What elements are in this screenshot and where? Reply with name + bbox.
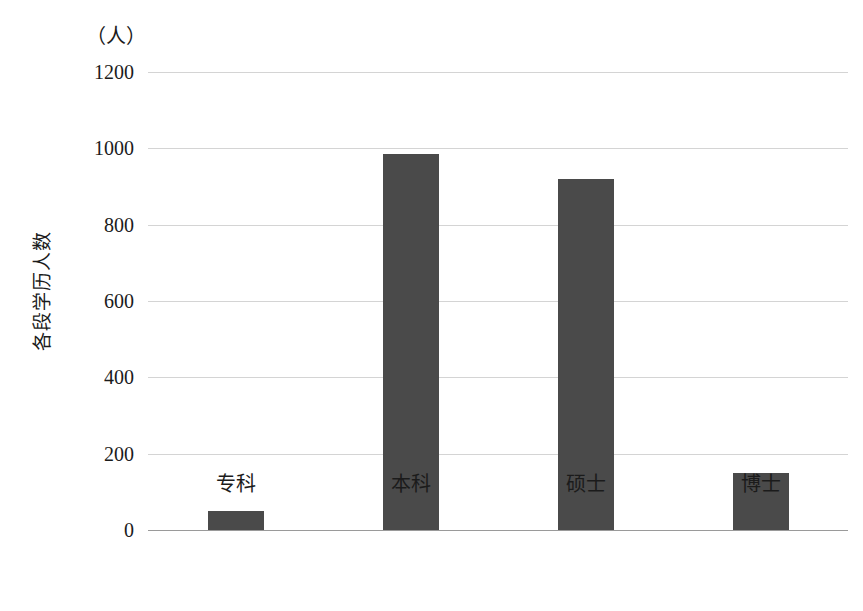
plot-area: 020040060080010001200 xyxy=(148,72,848,530)
bar-slot xyxy=(673,72,848,530)
y-tick-label: 600 xyxy=(104,291,134,311)
y-axis-unit-label: （人） xyxy=(86,24,146,48)
bar xyxy=(208,511,264,530)
bar-slot xyxy=(323,72,498,530)
bar-chart: （人） 各段学历人数 020040060080010001200 专科本科硕士博… xyxy=(0,0,863,611)
bar-series xyxy=(148,72,848,530)
y-tick-label: 400 xyxy=(104,367,134,387)
y-tick-label: 200 xyxy=(104,444,134,464)
x-tick-label: 硕士 xyxy=(498,472,673,496)
bar-slot xyxy=(498,72,673,530)
y-tick-label: 1200 xyxy=(94,62,134,82)
x-tick-label: 博士 xyxy=(673,472,848,496)
bar-slot xyxy=(148,72,323,530)
y-axis-title: 各段学历人数 xyxy=(20,180,60,400)
y-tick-label: 1000 xyxy=(94,138,134,158)
x-tick-label: 本科 xyxy=(323,472,498,496)
y-tick-label: 0 xyxy=(124,520,134,540)
y-tick-label: 800 xyxy=(104,215,134,235)
x-tick-label: 专科 xyxy=(148,472,323,496)
axis-baseline xyxy=(148,530,848,531)
y-axis-title-text: 各段学历人数 xyxy=(27,230,54,350)
